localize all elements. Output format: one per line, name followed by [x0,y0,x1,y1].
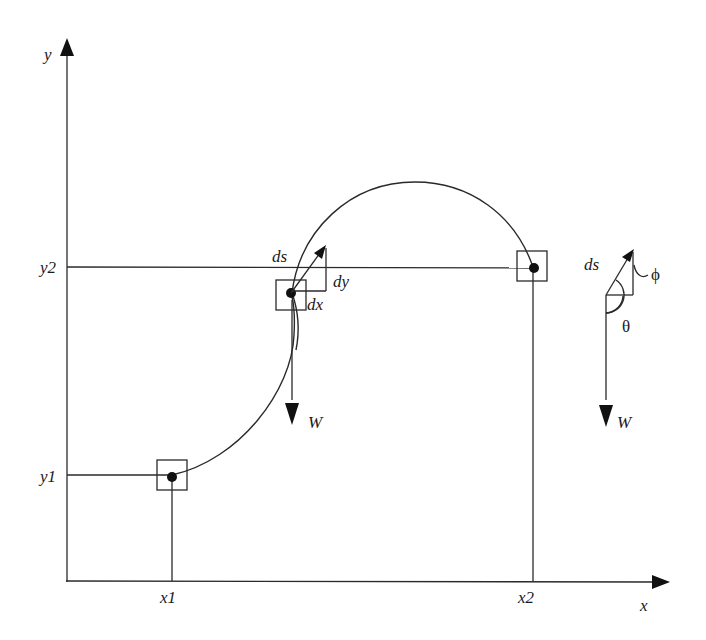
dy-label: dy [333,272,350,291]
x1-label: x1 [159,588,176,607]
phi-pointer [634,265,648,277]
trajectory-curve [172,182,533,475]
inset-ds-arrow-icon [622,249,634,262]
angle-inset: ds ϕ θ W [584,249,660,432]
y-axis-arrow-icon [60,38,74,56]
inset-weight-label: W [617,413,633,432]
inset-weight-arrow-icon [599,405,613,427]
y1-label: y1 [38,467,56,486]
y2-guide-line [67,267,533,268]
inset-ds-label: ds [584,255,600,274]
end-point [517,251,547,281]
x-axis-label: x [639,596,648,615]
theta-arc-lower [606,296,623,313]
ds-arrow-icon [314,245,326,259]
axes: y x [42,38,670,615]
end-mass-dot [529,263,539,273]
weight-arrow-icon [285,403,299,425]
inset-ds-vector [606,258,628,295]
x-axis-arrow-icon [652,575,670,589]
dx-label: dx [307,295,324,314]
ds-label: ds [272,247,288,266]
curve-element: ds dy dx W [272,245,350,432]
phi-label: ϕ [651,265,660,284]
theta-label: θ [622,317,630,336]
y-axis-label: y [42,45,52,64]
weight-label: W [308,413,324,432]
reference-lines [67,267,533,581]
x-axis [66,581,656,582]
theta-arc [606,280,624,313]
x2-label: x2 [517,588,535,607]
trajectory-diagram: y x y2 y1 x1 x2 ds dy dx [0,0,706,640]
start-mass-dot [167,472,177,482]
y2-label: y2 [38,258,57,277]
